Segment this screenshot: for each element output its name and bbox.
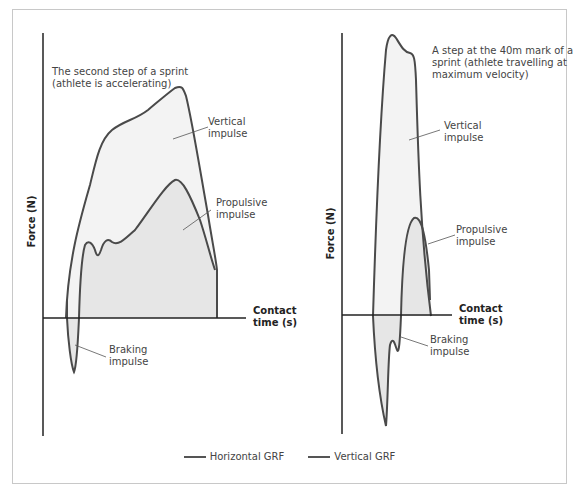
label-line: impulse bbox=[208, 128, 247, 140]
legend-label: Horizontal GRF bbox=[210, 451, 285, 462]
right-chart bbox=[342, 33, 455, 434]
legend-label: Vertical GRF bbox=[334, 451, 395, 462]
label-line: Vertical bbox=[208, 116, 247, 128]
legend-swatch bbox=[184, 456, 206, 458]
right-braking-impulse-label: Braking impulse bbox=[430, 334, 469, 358]
left-title-line1: The second step of a sprint bbox=[52, 66, 188, 78]
label-line: impulse bbox=[444, 132, 483, 144]
label-line: Propulsive bbox=[216, 197, 267, 209]
label-line: time (s) bbox=[459, 315, 503, 327]
right-vertical-impulse-label: Vertical impulse bbox=[444, 120, 483, 144]
label-line: Braking bbox=[109, 344, 148, 356]
left-y-axis-label: Force (N) bbox=[26, 192, 37, 252]
legend-item-horizontal-grf: Horizontal GRF bbox=[184, 451, 285, 462]
left-x-axis-label: Contact time (s) bbox=[253, 305, 297, 329]
left-braking-impulse-label: Braking impulse bbox=[109, 344, 148, 368]
legend: Horizontal GRF Vertical GRF bbox=[0, 451, 579, 462]
label-line: Contact bbox=[253, 305, 297, 317]
label-line: Propulsive bbox=[456, 224, 507, 236]
label-line: impulse bbox=[456, 236, 507, 248]
legend-item-vertical-grf: Vertical GRF bbox=[308, 451, 395, 462]
label-line: impulse bbox=[109, 356, 148, 368]
left-braking-leader bbox=[75, 345, 106, 357]
right-propulsive-leader bbox=[428, 235, 455, 244]
right-title-line3: maximum velocity) bbox=[432, 69, 573, 81]
legend-swatch bbox=[308, 456, 330, 458]
left-chart bbox=[43, 33, 246, 436]
left-propulsive-impulse-label: Propulsive impulse bbox=[216, 197, 267, 221]
label-line: Braking bbox=[430, 334, 469, 346]
label-line: impulse bbox=[430, 346, 469, 358]
right-title-line1: A step at the 40m mark of a bbox=[432, 45, 573, 57]
label-line: time (s) bbox=[253, 317, 297, 329]
label-line: impulse bbox=[216, 209, 267, 221]
right-title: A step at the 40m mark of a sprint (athl… bbox=[432, 45, 573, 81]
left-title-line2: (athlete is accelerating) bbox=[52, 78, 188, 90]
right-x-axis-label: Contact time (s) bbox=[459, 303, 503, 327]
label-line: Contact bbox=[459, 303, 503, 315]
right-propulsive-impulse-label: Propulsive impulse bbox=[456, 224, 507, 248]
left-title: The second step of a sprint (athlete is … bbox=[52, 66, 188, 90]
right-title-line2: sprint (athlete travelling at bbox=[432, 57, 573, 69]
right-braking-leader bbox=[401, 337, 428, 346]
right-y-axis-label: Force (N) bbox=[325, 204, 336, 264]
label-line: Vertical bbox=[444, 120, 483, 132]
left-vertical-impulse-label: Vertical impulse bbox=[208, 116, 247, 140]
